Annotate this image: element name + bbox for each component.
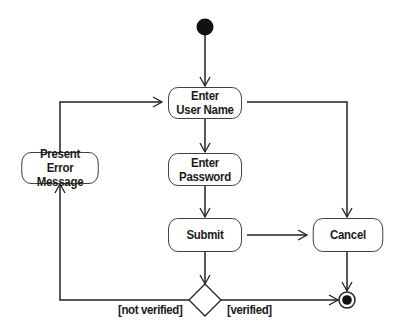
action-label-line2: Password <box>179 170 231 184</box>
action-label-line2: User Name <box>176 103 233 117</box>
edge-username-to-cancel <box>247 102 347 217</box>
action-label: Cancel <box>330 228 366 242</box>
action-enter-password[interactable]: Enter Password <box>168 153 242 186</box>
initial-node-icon <box>197 19 214 36</box>
action-label-line1: Present <box>40 147 80 161</box>
decision-node-icon <box>189 284 221 316</box>
action-present-error-message[interactable]: Present Error Message <box>21 152 98 184</box>
action-label: Submit <box>186 228 223 242</box>
action-cancel[interactable]: Cancel <box>313 218 383 252</box>
action-label-line1: Enter <box>191 89 219 103</box>
final-node-inner-icon <box>342 295 352 305</box>
guard-not-verified: [not verified] <box>118 302 182 317</box>
action-submit[interactable]: Submit <box>168 218 242 252</box>
guard-verified: [verified] <box>227 302 272 317</box>
edge-error-to-username <box>60 102 162 152</box>
action-label-line2: Error Message <box>22 161 98 189</box>
action-enter-user-name[interactable]: Enter User Name <box>168 87 242 119</box>
action-label-line1: Enter <box>191 156 219 170</box>
